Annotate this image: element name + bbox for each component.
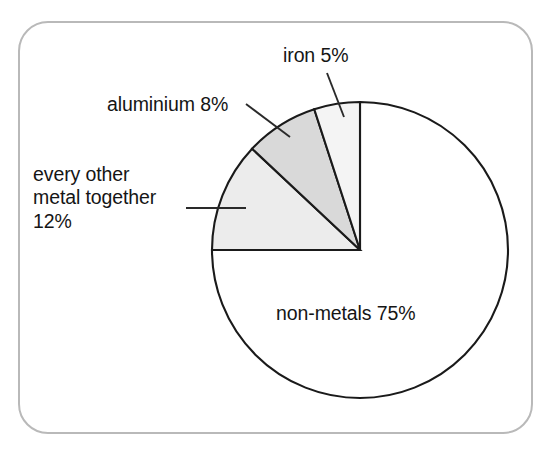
pie-label-non-metals: non-metals 75% [276, 302, 416, 325]
pie-label-every-other-metal-line1: every other [33, 163, 129, 185]
figure-root: iron 5% aluminium 8% every othermetal to… [0, 0, 557, 449]
pie-label-aluminium: aluminium 8% [107, 93, 228, 116]
pie-label-every-other-metal-line3: 12% [33, 210, 72, 232]
leader-line-aluminium [246, 104, 290, 137]
pie-label-every-other-metal-line2: metal together [33, 186, 156, 208]
pie-label-every-other-metal: every othermetal together12% [33, 163, 156, 233]
pie-label-iron: iron 5% [283, 44, 348, 67]
